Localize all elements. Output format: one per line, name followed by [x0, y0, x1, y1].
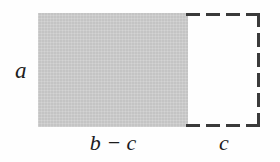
shaded-rectangle	[38, 13, 188, 127]
dashed-edge-right	[257, 13, 260, 127]
dashed-rectangle	[188, 13, 260, 127]
dashed-edge-top	[186, 13, 262, 16]
geometry-figure-canvas: a b − c c	[0, 0, 280, 162]
dashed-edge-bottom	[186, 124, 262, 127]
width-label-b-minus-c: b − c	[38, 132, 188, 154]
width-label-c: c	[188, 132, 260, 154]
height-label-a: a	[15, 59, 27, 82]
